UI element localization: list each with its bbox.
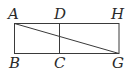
label-H: H (110, 5, 125, 23)
label-C: C (54, 54, 66, 72)
label-G: G (112, 54, 124, 72)
label-D: D (53, 5, 66, 23)
label-A: A (6, 5, 19, 23)
label-B: B (8, 54, 20, 72)
diagonal-AG (15, 24, 120, 54)
geometry-diagram: A D H B C G (0, 0, 128, 75)
